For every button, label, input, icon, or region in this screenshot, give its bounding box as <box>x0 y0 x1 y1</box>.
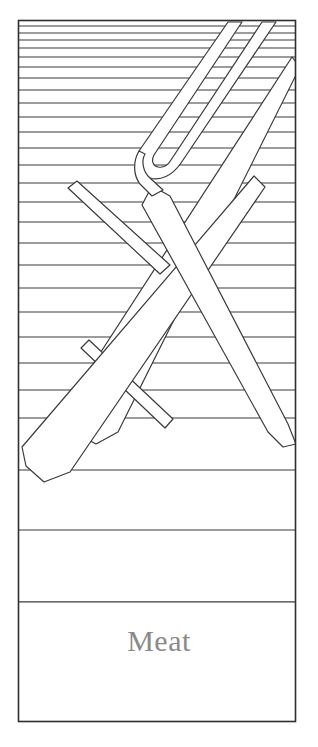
meat-illustration: Meat <box>0 0 318 747</box>
caption-label: Meat <box>127 624 191 657</box>
meat-category-card: Meat <box>0 0 318 747</box>
caption-band <box>19 602 296 722</box>
